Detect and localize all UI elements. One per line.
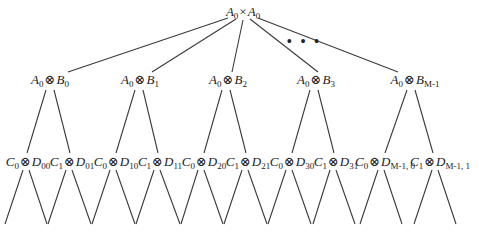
factor-left: C (50, 154, 59, 169)
operator: ⊗ (284, 154, 295, 169)
factor-left: C (182, 154, 191, 169)
tree-edges (0, 0, 479, 232)
operator: ⊗ (196, 154, 207, 169)
factor-left: C (94, 154, 103, 169)
factor-left: A (31, 72, 39, 87)
operator: ⊗ (135, 72, 146, 87)
operator: ⊗ (152, 154, 163, 169)
level1-node: A0⊗B1 (121, 73, 159, 87)
level2-node: C0⊗DM-1, 0 (355, 155, 415, 169)
subscript-right: 0 (64, 79, 69, 89)
subscript-right: 1 (154, 79, 159, 89)
operator: ⊗ (311, 72, 322, 87)
factor-left: C (6, 154, 15, 169)
level1-node: A0⊗B0 (31, 73, 69, 87)
factor-left: C (355, 154, 364, 169)
subscript-right: 2 (242, 79, 247, 89)
subscript-right: 3 (330, 79, 335, 89)
subscript-left: 0 (305, 79, 310, 89)
level1-node: A0⊗B3 (297, 73, 335, 87)
level2-node: C0⊗D30 (270, 155, 314, 169)
factor-left: A (121, 72, 129, 87)
subscript-left: 0 (14, 161, 19, 171)
factor-left: A (209, 72, 217, 87)
factor-left: C (314, 154, 323, 169)
level2-node: C0⊗D10 (94, 155, 138, 169)
level2-node: C0⊗D00 (6, 155, 50, 169)
factor-left: C (270, 154, 279, 169)
level2-node: C1⊗DM-1, 1 (410, 155, 470, 169)
operator: ⊗ (108, 154, 119, 169)
subscript-left: 1 (147, 161, 152, 171)
ellipsis: • • • (287, 33, 322, 51)
subscript-left: 0 (39, 79, 44, 89)
factor-left: C (226, 154, 235, 169)
level2-node: C1⊗D01 (50, 155, 94, 169)
factor-left: A (391, 72, 399, 87)
operator: ⊗ (404, 72, 415, 87)
factor-left: A (297, 72, 305, 87)
subscript-right: M-1, 1 (445, 161, 470, 171)
subscript-left: 0 (190, 161, 195, 171)
factor-right: A (248, 4, 256, 19)
subscript-left: 1 (322, 161, 327, 171)
subscript-left: 1 (234, 161, 239, 171)
factor-left: A (226, 4, 234, 19)
subscript-left: 1 (419, 161, 424, 171)
subscript-left: 0 (364, 161, 369, 171)
factor-left: C (410, 154, 419, 169)
root-node: A0×A0 (226, 5, 260, 19)
operator: × (239, 4, 246, 19)
subscript-left: 0 (102, 161, 107, 171)
subscript-left: 0 (278, 161, 283, 171)
subscript-left: 0 (234, 11, 239, 21)
operator: ⊗ (424, 154, 435, 169)
operator: ⊗ (223, 72, 234, 87)
factor-left: C (138, 154, 147, 169)
level1-node: A0⊗BM-1 (391, 73, 440, 87)
subscript-left: 0 (129, 79, 134, 89)
subscript-right: 10 (129, 161, 138, 171)
subscript-right: 11 (173, 161, 182, 171)
level2-node: C1⊗D31 (314, 155, 358, 169)
level2-node: C1⊗D11 (138, 155, 182, 169)
level2-node: C1⊗D21 (226, 155, 270, 169)
operator: ⊗ (45, 72, 56, 87)
level2-node: C0⊗D20 (182, 155, 226, 169)
operator: ⊗ (328, 154, 339, 169)
subscript-left: 0 (217, 79, 222, 89)
tree-diagram: A0×A0A0⊗B0A0⊗B1A0⊗B2A0⊗B3A0⊗BM-1C0⊗D00C1… (0, 0, 479, 232)
operator: ⊗ (369, 154, 380, 169)
level1-node: A0⊗B2 (209, 73, 247, 87)
operator: ⊗ (240, 154, 251, 169)
operator: ⊗ (20, 154, 31, 169)
subscript-right: 0 (256, 11, 261, 21)
subscript-left: 1 (58, 161, 63, 171)
subscript-left: 0 (399, 79, 404, 89)
subscript-right: M-1 (424, 79, 440, 89)
operator: ⊗ (64, 154, 75, 169)
